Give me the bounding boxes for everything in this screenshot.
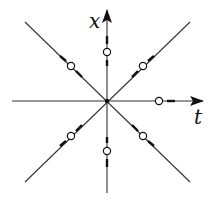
circle-marker-up bbox=[103, 48, 110, 55]
x-axis-label: x bbox=[89, 9, 100, 33]
arrow-segment-lr-inner bbox=[132, 125, 138, 131]
arrow-segment-ul bbox=[60, 56, 66, 61]
circle-marker-right bbox=[155, 97, 162, 104]
arrow-segment-ul-inner bbox=[76, 71, 82, 77]
circle-marker-up-left bbox=[67, 62, 74, 69]
circle-marker-down-right bbox=[139, 132, 146, 139]
circle-marker-down-left bbox=[67, 132, 74, 139]
circle-marker-up-right bbox=[139, 62, 146, 69]
arrow-segment-lr bbox=[148, 141, 154, 146]
phase-portrait-diagram: x t bbox=[0, 0, 215, 201]
origin-point bbox=[105, 99, 109, 103]
circle-marker-down bbox=[103, 147, 110, 154]
t-axis-label: t bbox=[194, 105, 203, 129]
